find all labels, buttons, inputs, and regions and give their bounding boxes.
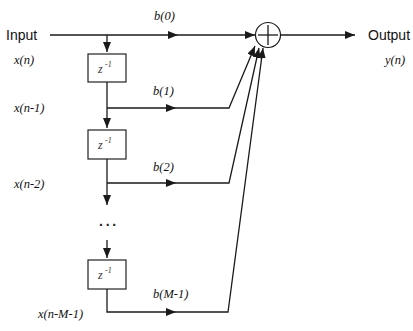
delay-block-1-exp: -1 [105,60,112,69]
tap-0-arrow-icon [168,31,178,39]
delay-block-2-exp: -1 [105,136,112,145]
tap-last-path [107,48,263,316]
tap-0-path [50,31,255,39]
output-signal-label: y(n) [383,53,405,67]
delay-block-2-z: z [97,138,103,152]
tap-1-signal: x(n-1) [13,101,45,115]
delay-block-1-z: z [97,62,103,76]
tap-last-arrow-icon [166,308,176,316]
tap-1-arrow-icon [166,104,176,112]
delay-block-1: z -1 [88,54,126,82]
delay-block-2: z -1 [88,130,126,159]
tap-last-signal: x(n-M-1) [37,307,83,321]
tap-2-coef: b(2) [153,160,174,174]
summation-node [256,23,281,48]
diagram-svg: Input x(n) b(0) Output y(n) z -1 x(n-1) … [0,0,413,331]
tap-0-coef: b(0) [154,9,175,23]
input-label: Input [6,27,37,43]
fir-filter-diagram: Input x(n) b(0) Output y(n) z -1 x(n-1) … [0,0,413,331]
tap-2-arrow-icon [166,179,176,187]
tap-1-coef: b(1) [153,84,174,98]
tap-1-path [107,46,255,112]
delay-block-3: z -1 [88,260,126,289]
tap-2-path [107,48,259,187]
ellipsis: ··· [99,217,119,233]
delay-block-3-exp: -1 [105,266,112,275]
input-signal-label: x(n) [13,53,34,67]
tap-last-coef: b(M-1) [153,287,188,301]
delay-block-3-z: z [97,268,103,282]
output-label: Output [368,27,410,43]
tap-2-signal: x(n-2) [13,177,45,191]
